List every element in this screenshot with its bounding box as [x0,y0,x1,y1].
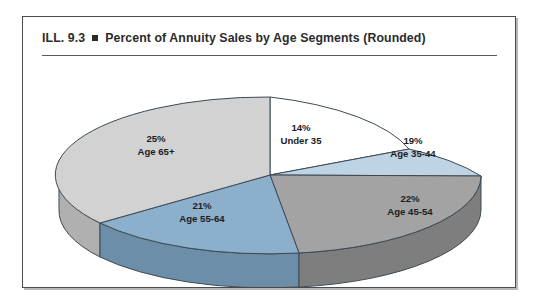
label-age-35-44-name: Age 35-44 [390,148,436,159]
illustration-number: ILL. 9.3 [42,31,85,45]
title-divider [42,55,497,56]
filled-square-icon [92,35,98,41]
label-age-45-54-name: Age 45-54 [387,206,433,217]
label-age-55-64-name: Age 55-64 [179,213,225,224]
page-title: Percent of Annuity Sales by Age Segments… [105,31,425,45]
label-age-65-plus-name: Age 65+ [137,146,174,157]
label-age-35-44-pct: 19% [403,135,423,146]
label-under-35-pct: 14% [291,122,311,133]
pie-chart-svg: 14% Under 35 19% Age 35-44 22% Age 45-54… [23,63,517,287]
figure-header: ILL. 9.3Percent of Annuity Sales by Age … [23,31,515,65]
figure-title: ILL. 9.3Percent of Annuity Sales by Age … [42,31,426,45]
label-under-35-name: Under 35 [280,135,322,146]
label-age-55-64-pct: 21% [192,200,212,211]
label-age-45-54-pct: 22% [400,193,420,204]
illustration-frame: ILL. 9.3Percent of Annuity Sales by Age … [22,16,516,288]
pie-chart: 14% Under 35 19% Age 35-44 22% Age 45-54… [23,63,517,287]
pie-top-face [55,97,481,254]
label-age-65-plus-pct: 25% [146,133,166,144]
